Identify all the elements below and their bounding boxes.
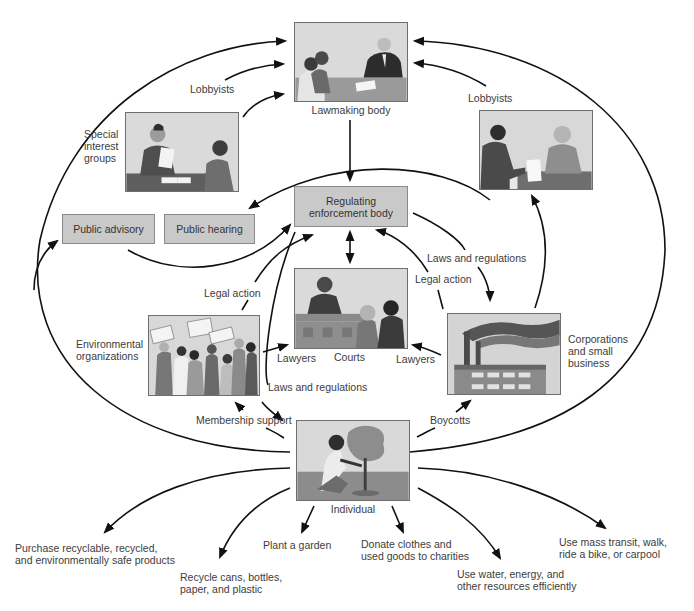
corporations-label: Corporations and small business — [568, 333, 628, 369]
action-plant-garden: Plant a garden — [263, 539, 331, 551]
legal-action-left-label: Legal action — [204, 287, 261, 299]
lawyers-right-label: Lawyers — [396, 353, 435, 365]
action-donate: Donate clothes and used goods to chariti… — [361, 538, 469, 562]
courts-label: Courts — [334, 351, 365, 363]
regulating-enforcement-body-box: Regulating enforcement body — [294, 186, 408, 227]
arrow-to-transit — [418, 468, 605, 528]
public-hearing-box: Public hearing — [164, 214, 255, 244]
lobbyists-left-label: Lobbyists — [190, 83, 234, 95]
arrow-corporations-to-lobbyists — [532, 196, 545, 308]
arrow-lobbyists-left-lower — [243, 94, 283, 117]
membership-support-label: Membership support — [196, 414, 292, 426]
arrow-to-purchase — [105, 468, 290, 532]
action-mass-transit: Use mass transit, walk, ride a bike, or … — [559, 536, 667, 560]
laws-regulations-center-label: Laws and regulations — [268, 381, 367, 393]
environmental-organizations-label: Environmental organizations — [76, 338, 143, 362]
laws-regulations-right-label: Laws and regulations — [427, 252, 526, 264]
action-recycle: Recycle cans, bottles, paper, and plasti… — [180, 571, 282, 595]
action-purchase: Purchase recyclable, recycled, and envir… — [15, 542, 175, 566]
arrow-lobbyists-left-upper — [225, 64, 283, 80]
special-interest-groups-illustration — [125, 112, 239, 192]
environmental-organizations-illustration — [148, 315, 260, 396]
legal-action-right-label: Legal action — [415, 273, 472, 285]
action-use-resources: Use water, energy, and other resources e… — [457, 568, 576, 592]
lobbyists-right-label: Lobbyists — [468, 92, 512, 104]
arrow-to-public-advisory — [34, 241, 57, 290]
public-advisory-box: Public advisory — [62, 214, 155, 244]
special-interest-groups-label: Special interest groups — [84, 128, 118, 164]
lawmaking-body-illustration — [294, 22, 408, 102]
courts-illustration — [294, 268, 408, 349]
arrow-env-lawyers — [263, 345, 287, 352]
lawmaking-body-label: Lawmaking body — [294, 104, 408, 116]
boycotts-label: Boycotts — [430, 414, 470, 426]
corporations-factory-illustration — [447, 313, 561, 395]
individual-illustration — [296, 420, 410, 501]
arrow-lobbyists-right-upper — [415, 63, 486, 86]
individual-label: Individual — [296, 503, 410, 515]
lobbyists-meeting-illustration — [479, 110, 593, 190]
lawyers-left-label: Lawyers — [277, 352, 316, 364]
